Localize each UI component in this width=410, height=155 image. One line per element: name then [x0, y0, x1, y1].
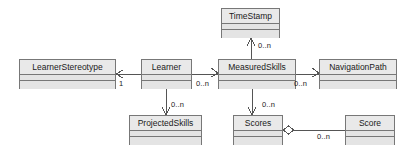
class-box-learnerstereotype[interactable]: LearnerStereotype — [19, 59, 116, 89]
multiplicity-label-projectedskills: 0..n — [171, 100, 184, 109]
class-operations-compartment-projectedskills — [130, 137, 201, 145]
multiplicity-label-timestamp: 0..n — [258, 41, 271, 50]
class-name-timestamp: TimeStamp — [222, 9, 279, 24]
multiplicity-label-learnerstereotype: 1 — [119, 79, 123, 88]
class-box-learner[interactable]: Learner — [141, 59, 192, 89]
class-name-projectedskills: ProjectedSkills — [130, 116, 201, 131]
class-operations-compartment-navigationpath — [320, 81, 396, 89]
class-box-measuredskills[interactable]: MeasuredSkills — [218, 59, 296, 89]
class-box-score[interactable]: Score — [345, 115, 395, 145]
class-operations-compartment-score — [346, 137, 394, 145]
arrowhead-learnerstereotype — [116, 70, 123, 78]
arrowhead-scores — [248, 107, 256, 115]
class-box-navigationpath[interactable]: NavigationPath — [319, 59, 397, 89]
class-box-scores[interactable]: Scores — [233, 115, 283, 145]
class-operations-compartment-scores — [234, 137, 282, 145]
class-name-score: Score — [346, 116, 394, 131]
class-operations-compartment-measuredskills — [219, 81, 295, 89]
class-box-timestamp[interactable]: TimeStamp — [221, 8, 280, 38]
multiplicity-label-navigationpath: 0..n — [294, 79, 307, 88]
class-name-learnerstereotype: LearnerStereotype — [20, 60, 115, 75]
arrowhead-measuredskills — [211, 68, 218, 77]
arrowhead-projectedskills — [162, 107, 170, 115]
class-name-scores: Scores — [234, 116, 282, 131]
class-name-measuredskills: MeasuredSkills — [219, 60, 295, 75]
multiplicity-label-scores: 0..n — [262, 100, 275, 109]
class-operations-compartment-learner — [142, 81, 191, 89]
arrowhead-navigationpath — [312, 68, 319, 77]
class-operations-compartment-timestamp — [222, 30, 279, 38]
multiplicity-label-score: 0..n — [317, 132, 330, 141]
uml-diagram-canvas: TimeStamp LearnerStereotype Learner Meas… — [0, 0, 410, 155]
class-name-learner: Learner — [142, 60, 191, 75]
class-box-projectedskills[interactable]: ProjectedSkills — [129, 115, 202, 145]
arrowhead-timestamp — [247, 38, 255, 46]
multiplicity-label-measuredskills-in: 0..n — [196, 79, 209, 88]
class-name-navigationpath: NavigationPath — [320, 60, 396, 75]
aggregation-diamond-icon — [283, 126, 294, 134]
class-operations-compartment-learnerstereotype — [20, 81, 115, 89]
